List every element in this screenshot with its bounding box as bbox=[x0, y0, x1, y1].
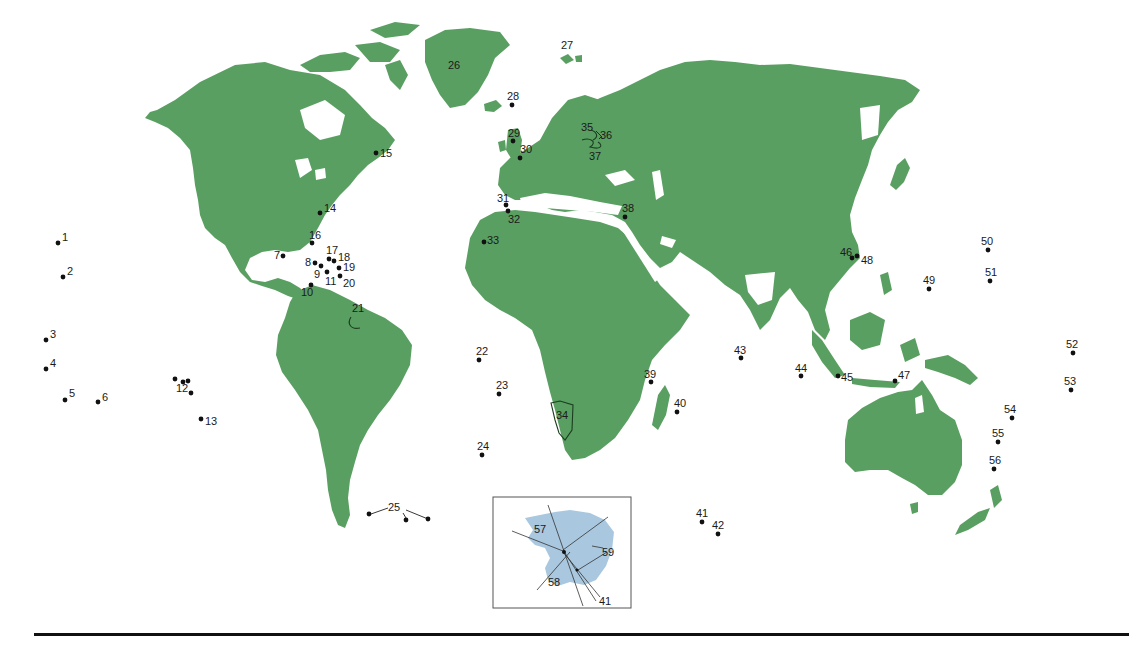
inset-label-59: 59 bbox=[602, 546, 614, 558]
marker-label: 29 bbox=[508, 127, 520, 139]
marker-dot bbox=[338, 274, 343, 279]
marker-dot bbox=[63, 398, 68, 403]
marker-label: 12 bbox=[176, 382, 188, 394]
location-marker-44: 44 bbox=[795, 362, 807, 378]
location-marker-6: 6 bbox=[96, 391, 109, 404]
marker-dot bbox=[739, 356, 744, 361]
marker-label: 28 bbox=[507, 90, 519, 102]
south-america bbox=[276, 285, 412, 528]
marker-label: 46 bbox=[840, 246, 852, 258]
inset-label-58: 58 bbox=[548, 576, 560, 588]
marker-dot bbox=[337, 266, 342, 271]
location-marker-23: 23 bbox=[496, 379, 508, 396]
marker-dot bbox=[313, 261, 318, 266]
marker-label: 44 bbox=[795, 362, 807, 374]
leader-25-b bbox=[403, 513, 406, 518]
location-marker-26: 26 bbox=[448, 59, 460, 71]
marker-label: 41 bbox=[696, 507, 708, 519]
location-marker-8: 8 bbox=[305, 256, 317, 268]
location-marker-27: 27 bbox=[561, 39, 573, 51]
marker-label: 38 bbox=[622, 202, 634, 214]
marker-dot bbox=[1010, 416, 1015, 421]
location-marker-2: 2 bbox=[61, 265, 74, 279]
marker-label: 37 bbox=[589, 150, 601, 162]
marker-label: 2 bbox=[67, 265, 73, 277]
location-marker-4: 4 bbox=[44, 357, 57, 371]
marker-dot bbox=[927, 287, 932, 292]
marker-dot bbox=[404, 518, 409, 523]
marker-dot bbox=[480, 453, 485, 458]
marker-dot bbox=[426, 517, 431, 522]
location-marker-13: 13 bbox=[199, 415, 218, 427]
marker-dot bbox=[511, 139, 516, 144]
location-marker-49: 49 bbox=[923, 274, 935, 291]
marker-label: 26 bbox=[448, 59, 460, 71]
marker-label: 47 bbox=[898, 369, 910, 381]
location-marker-11: 11 bbox=[325, 270, 337, 287]
marker-label: 17 bbox=[326, 244, 338, 256]
marker-dot bbox=[518, 156, 523, 161]
marker-label: 48 bbox=[861, 254, 873, 266]
marker-label: 3 bbox=[50, 328, 56, 340]
location-marker-28: 28 bbox=[507, 90, 519, 107]
marker-label: 51 bbox=[985, 266, 997, 278]
location-marker-21: 21 bbox=[352, 302, 364, 314]
new-zealand bbox=[955, 485, 1002, 535]
marker-label: 42 bbox=[712, 519, 724, 531]
marker-dot bbox=[96, 400, 101, 405]
marker-label: 40 bbox=[674, 397, 686, 409]
marker-label: 13 bbox=[205, 415, 217, 427]
location-marker-55: 55 bbox=[992, 427, 1004, 444]
location-marker-5: 5 bbox=[63, 387, 76, 402]
land-masses bbox=[145, 22, 1002, 535]
marker-label: 7 bbox=[274, 249, 280, 261]
madagascar bbox=[652, 385, 670, 430]
marker-label: 15 bbox=[380, 147, 392, 159]
marker-dot bbox=[173, 377, 178, 382]
bottom-rule bbox=[34, 633, 1129, 636]
marker-label: 33 bbox=[487, 234, 499, 246]
marker-dot bbox=[992, 467, 997, 472]
marker-label: 56 bbox=[989, 454, 1001, 466]
location-marker-52: 52 bbox=[1066, 338, 1078, 355]
iceland bbox=[484, 100, 502, 112]
marker-dot bbox=[44, 338, 49, 343]
location-marker-42: 42 bbox=[712, 519, 724, 536]
south-pole-dot bbox=[562, 550, 566, 554]
marker-label: 25 bbox=[388, 501, 400, 513]
leader-25-c bbox=[406, 510, 428, 519]
svalbard bbox=[560, 54, 582, 64]
location-marker-47: 47 bbox=[893, 369, 911, 383]
marker-dot bbox=[700, 520, 705, 525]
inset-label-41: 41 bbox=[599, 595, 611, 607]
location-marker-50: 50 bbox=[981, 235, 993, 252]
marker-label: 24 bbox=[477, 440, 489, 452]
marker-dot bbox=[986, 248, 991, 253]
marker-dot bbox=[1071, 351, 1076, 356]
marker-label: 52 bbox=[1066, 338, 1078, 350]
marker-dot bbox=[327, 257, 332, 262]
sea-of-okhotsk bbox=[860, 105, 880, 140]
marker-label: 4 bbox=[50, 357, 56, 369]
location-marker-54: 54 bbox=[1004, 403, 1016, 420]
marker-dot bbox=[649, 380, 654, 385]
marker-label: 55 bbox=[992, 427, 1004, 439]
marker-dot bbox=[477, 358, 482, 363]
marker-label: 14 bbox=[324, 202, 336, 214]
marker-label: 50 bbox=[981, 235, 993, 247]
marker-dot bbox=[855, 254, 860, 259]
marker-dot bbox=[374, 151, 379, 156]
location-marker-20: 20 bbox=[338, 274, 356, 289]
marker-label: 32 bbox=[508, 213, 520, 225]
location-marker-34: 34 bbox=[556, 409, 568, 421]
marker-label: 36 bbox=[600, 129, 612, 141]
marker-label: 16 bbox=[309, 229, 321, 241]
inset-label-57: 57 bbox=[534, 523, 546, 535]
greenland bbox=[425, 28, 510, 108]
marker-dot bbox=[675, 410, 680, 415]
location-marker-10: 10 bbox=[301, 283, 313, 298]
location-marker-43: 43 bbox=[734, 344, 746, 360]
marker-label: 23 bbox=[496, 379, 508, 391]
marker-dot bbox=[799, 374, 804, 379]
location-marker-9: 9 bbox=[314, 264, 323, 280]
